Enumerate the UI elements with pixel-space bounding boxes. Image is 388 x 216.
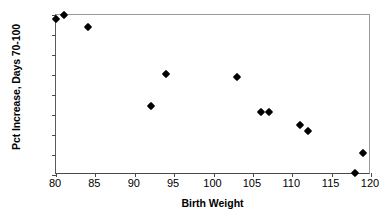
plot-area xyxy=(55,14,370,174)
y-axis-tick xyxy=(52,95,56,96)
data-point xyxy=(233,73,241,81)
y-axis-tick xyxy=(52,35,56,36)
data-point xyxy=(83,23,91,31)
data-point xyxy=(52,15,60,23)
data-point xyxy=(304,127,312,135)
x-axis-tick-label: 110 xyxy=(271,178,311,189)
x-axis-tick-label: 90 xyxy=(114,178,154,189)
x-axis-tick-label: 95 xyxy=(153,178,193,189)
data-point xyxy=(257,108,265,116)
data-point xyxy=(351,169,359,177)
x-axis-tick-label: 115 xyxy=(311,178,351,189)
y-axis-tick xyxy=(52,135,56,136)
x-axis-tick-label: 120 xyxy=(350,178,388,189)
data-point xyxy=(264,108,272,116)
data-point xyxy=(296,121,304,129)
chart-title xyxy=(0,0,388,1)
y-axis-tick xyxy=(52,75,56,76)
y-axis-tick xyxy=(52,115,56,116)
x-axis-tick-label: 105 xyxy=(232,178,272,189)
y-axis-title: Pct Increase, Days 70-100 xyxy=(9,7,23,167)
data-point xyxy=(359,149,367,157)
y-axis-tick xyxy=(52,55,56,56)
x-axis-title: Birth Weight xyxy=(55,197,370,209)
y-axis-tick xyxy=(52,155,56,156)
x-axis-tick-label: 80 xyxy=(35,178,75,189)
x-axis-tick-label: 85 xyxy=(74,178,114,189)
scatter-chart: Pct Increase, Days 70-100 Birth Weight 4… xyxy=(0,0,388,216)
data-point xyxy=(146,102,154,110)
data-point xyxy=(162,70,170,78)
x-axis-tick-label: 100 xyxy=(193,178,233,189)
data-point xyxy=(60,11,68,19)
